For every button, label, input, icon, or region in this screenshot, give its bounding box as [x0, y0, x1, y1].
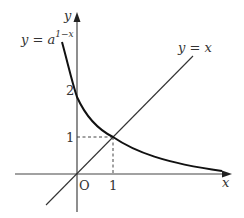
graph-canvas: y x O 1 1 2 y = a1−x y = x — [0, 0, 244, 218]
exponential-curve-label: y = a1−x — [20, 29, 74, 47]
exponential-label-base: y = a — [20, 32, 55, 47]
x-axis-label: x — [222, 175, 230, 190]
x-axis — [15, 171, 232, 178]
identity-line-label: y = x — [177, 40, 213, 55]
y-axis-arrow-icon — [74, 12, 81, 22]
x-tick-1: 1 — [109, 178, 117, 193]
exponential-label-exponent: 1−x — [55, 29, 73, 39]
exponential-curve — [62, 42, 222, 171]
y-axis-label: y — [63, 8, 72, 23]
y-tick-2: 2 — [66, 83, 74, 98]
y-tick-1: 1 — [66, 130, 74, 145]
origin-label: O — [79, 178, 90, 193]
